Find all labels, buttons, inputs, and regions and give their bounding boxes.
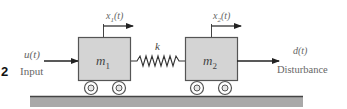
mass1-subscript: 1 [105, 61, 110, 71]
mass2-subscript: 2 [212, 61, 217, 71]
mass1-symbol: m [96, 53, 105, 68]
ground [30, 96, 303, 107]
input-symbol: u(t) [24, 49, 40, 60]
mass1-wheels [85, 82, 126, 95]
figure-number: 2 [1, 65, 8, 78]
x1-label: x1(t) [106, 11, 123, 24]
disturbance-caption: Disturbance [277, 65, 328, 76]
x2-arg: (t) [221, 10, 230, 21]
mass2-label: m2 [203, 54, 217, 71]
x1-displacement-arrow [104, 24, 134, 37]
two-mass-spring-diagram: 2 u(t) Input m1 x1(t) k m2 x2(t) d(t) Di… [0, 0, 347, 109]
x2-displacement-arrow [212, 24, 242, 37]
mass1-label: m1 [96, 54, 110, 71]
x1-arg: (t) [114, 10, 123, 21]
spring-k [131, 56, 185, 66]
input-caption: Input [20, 66, 43, 77]
mass2-symbol: m [203, 53, 212, 68]
mass2-wheels [191, 82, 232, 95]
x2-label: x2(t) [213, 11, 230, 24]
spring-label: k [155, 41, 160, 52]
disturbance-symbol: d(t) [293, 46, 307, 56]
